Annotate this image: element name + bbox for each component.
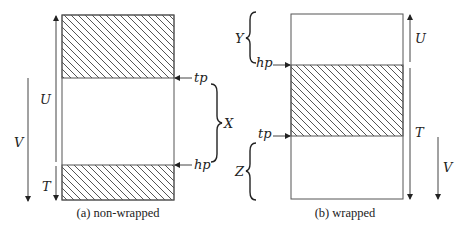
label-x-a: X — [223, 116, 234, 131]
caption-b: (b) wrapped — [315, 206, 376, 220]
label-v-a: V — [14, 135, 25, 150]
hatched-region-middle-b — [291, 65, 403, 136]
label-z-b: Z — [234, 164, 245, 179]
brace-x-a — [211, 84, 222, 162]
label-hp-a: hp — [194, 157, 211, 172]
brace-y-b — [246, 12, 256, 63]
brace-z-b — [246, 143, 256, 200]
diagram-canvas: U V T tp hp X (a) non-wrapped U T V Y hp — [0, 0, 468, 232]
panel-a-non-wrapped: U V T tp hp X (a) non-wrapped — [14, 15, 234, 220]
label-t-b: T — [415, 125, 425, 140]
hatched-region-top-a — [62, 15, 174, 78]
label-y-b: Y — [235, 31, 245, 46]
label-tp-b: tp — [258, 126, 272, 141]
label-tp-a: tp — [194, 70, 208, 85]
hatched-region-bottom-a — [62, 165, 174, 200]
label-v-b: V — [443, 160, 454, 175]
label-t-a: T — [42, 179, 52, 194]
label-hp-b: hp — [256, 55, 273, 70]
panel-b-wrapped: U T V Y hp tp Z (b) wrapped — [234, 12, 454, 220]
label-u-a: U — [40, 92, 52, 107]
label-u-b: U — [415, 31, 427, 46]
caption-a: (a) non-wrapped — [77, 206, 161, 220]
